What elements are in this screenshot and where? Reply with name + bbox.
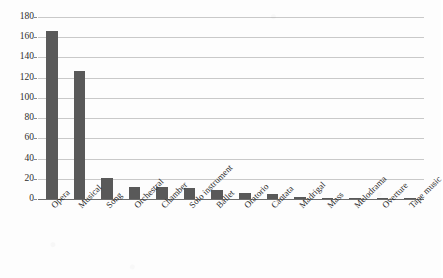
- y-axis-tick-label: 120: [0, 73, 34, 83]
- bar-slot: [93, 17, 121, 199]
- y-axis-tick-label: 180: [0, 12, 34, 22]
- bar-slot: [369, 17, 397, 199]
- y-axis-tick-mark: [34, 118, 37, 119]
- bar-slot: [286, 17, 314, 199]
- bar-slot: [314, 17, 342, 199]
- bar[interactable]: [46, 31, 58, 199]
- x-axis-labels: OperaMusicalSongOrchestralChamberSolo in…: [38, 200, 424, 278]
- y-axis-tick-mark: [34, 199, 37, 200]
- y-axis-tick-label: 100: [0, 93, 34, 103]
- bar-slot: [231, 17, 259, 199]
- bar-slot: [121, 17, 149, 199]
- y-axis-tick-mark: [34, 57, 37, 58]
- y-axis-tick-label: 20: [0, 174, 34, 184]
- bar-slot: [176, 17, 204, 199]
- y-axis-tick-label: 40: [0, 154, 34, 164]
- y-axis-tick-label: 0: [0, 194, 34, 204]
- y-axis-tick-label: 140: [0, 52, 34, 62]
- bar-slot: [396, 17, 424, 199]
- y-axis: 020406080100120140160180: [0, 17, 34, 199]
- y-axis-tick-mark: [34, 159, 37, 160]
- y-axis-tick-label: 60: [0, 133, 34, 143]
- y-axis-tick-mark: [34, 37, 37, 38]
- y-axis-tick-mark: [34, 138, 37, 139]
- bar[interactable]: [74, 71, 86, 199]
- y-axis-tick-label: 80: [0, 113, 34, 123]
- bar-slot: [38, 17, 66, 199]
- bar-slot: [259, 17, 287, 199]
- y-axis-tick-mark: [34, 78, 37, 79]
- y-axis-tick-mark: [34, 179, 37, 180]
- y-axis-tick-mark: [34, 17, 37, 18]
- y-axis-tick-label: 160: [0, 32, 34, 42]
- y-axis-tick-mark: [34, 98, 37, 99]
- bar-slot: [66, 17, 94, 199]
- bar-slot: [341, 17, 369, 199]
- bar-slot: [148, 17, 176, 199]
